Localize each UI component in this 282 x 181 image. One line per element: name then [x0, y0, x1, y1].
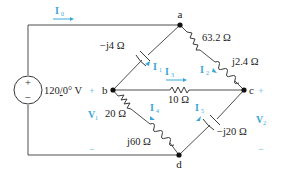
node-b [110, 87, 115, 92]
svg-text:I: I [55, 5, 59, 16]
svg-text:+: + [89, 86, 94, 96]
svg-text:2: 2 [206, 70, 209, 76]
svg-text:0: 0 [61, 11, 64, 17]
voltage-v1: + V 1 − [88, 86, 98, 154]
current-i1: I 1 [145, 61, 162, 73]
svg-text:I: I [153, 61, 157, 72]
node-d-label: d [176, 158, 182, 170]
current-i2: I 2 [200, 64, 217, 76]
source-plus: + [25, 77, 31, 88]
svg-text:−: − [89, 144, 94, 154]
res-ac-label: 63.2 Ω [202, 32, 231, 43]
current-i4: I 4 [150, 102, 159, 120]
svg-text:I: I [150, 102, 154, 113]
circuit-diagram: + − 120/0° V −j4 Ω 63.2 Ω j2.4 Ω 10 Ω 20… [0, 0, 282, 181]
cap-ab-label: −j4 Ω [100, 40, 125, 51]
svg-text:4: 4 [156, 108, 159, 114]
ind-bd-label: j60 Ω [126, 136, 151, 147]
current-i0: I 0 [53, 5, 74, 21]
resistor-bc [113, 87, 244, 93]
svg-text:1: 1 [159, 67, 162, 73]
cap-cd-label: −j20 Ω [217, 126, 247, 137]
svg-text:2: 2 [263, 120, 266, 126]
current-i5: I 5 [195, 102, 204, 121]
source-label: 120/0° V [44, 85, 83, 96]
res-bd-label: 20 Ω [105, 108, 126, 119]
voltage-source: + − [14, 76, 42, 104]
svg-text:I: I [195, 102, 199, 113]
node-c [241, 87, 246, 92]
svg-text:3: 3 [171, 72, 174, 78]
node-b-label: b [102, 84, 108, 96]
node-c-label: c [249, 84, 254, 96]
svg-text:I: I [200, 64, 204, 75]
svg-text:5: 5 [201, 108, 204, 114]
node-a-label: a [178, 8, 183, 20]
source-minus: − [25, 92, 31, 103]
svg-text:+: + [258, 86, 263, 96]
node-a [177, 22, 182, 27]
svg-text:1: 1 [95, 115, 98, 121]
svg-text:−: − [258, 144, 263, 154]
ind-ac-label: j2.4 Ω [231, 56, 259, 67]
voltage-v2: + V 2 − [256, 86, 266, 154]
res-bc-label: 10 Ω [168, 94, 189, 105]
node-d [176, 152, 181, 157]
current-i3: I 3 [165, 66, 187, 82]
svg-text:I: I [165, 66, 169, 77]
